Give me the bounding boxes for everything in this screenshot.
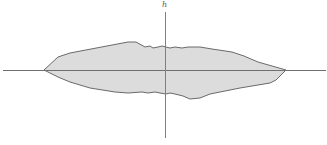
vertical-axis-label: h bbox=[162, 0, 167, 9]
diagram-canvas bbox=[0, 0, 327, 145]
